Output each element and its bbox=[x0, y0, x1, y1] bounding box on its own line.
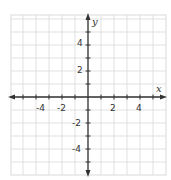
x-tick-label: -4 bbox=[36, 103, 45, 113]
x-tick-label: -2 bbox=[57, 103, 66, 113]
y-axis-label: y bbox=[91, 16, 98, 27]
y-tick-label: 2 bbox=[77, 65, 83, 75]
x-axis-label: x bbox=[156, 83, 162, 94]
coordinate-plane: y x -4 -2 2 4 4 2 -2 -4 bbox=[0, 0, 171, 180]
y-axis-down-arrow-icon bbox=[86, 170, 91, 177]
y-tick-label: -2 bbox=[72, 118, 81, 128]
y-axis-up-arrow-icon bbox=[86, 13, 91, 20]
y-tick-label: 4 bbox=[77, 38, 83, 48]
x-tick-label: 4 bbox=[136, 103, 142, 113]
y-tick-label: -4 bbox=[72, 144, 81, 154]
x-tick-label: 2 bbox=[110, 103, 116, 113]
